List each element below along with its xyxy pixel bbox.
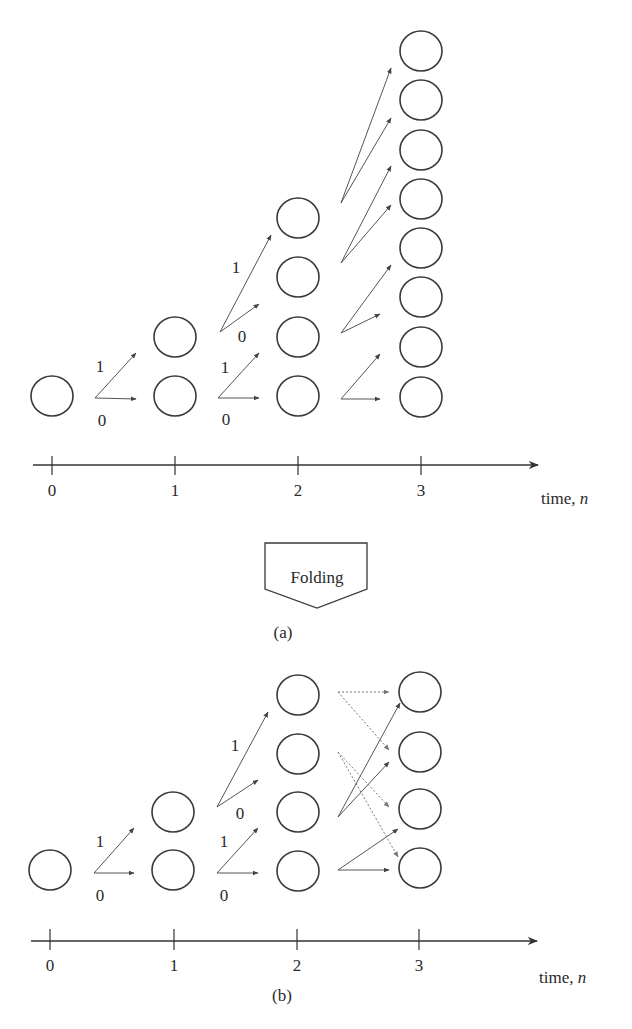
axis-title: time, n bbox=[541, 489, 588, 508]
axis-tick-label: 2 bbox=[294, 481, 303, 500]
axis-title-variable: n bbox=[578, 968, 587, 987]
axis-title: time, n bbox=[539, 968, 586, 987]
axis-tick-label: 0 bbox=[46, 956, 55, 975]
edge-bit-label: 0 bbox=[220, 886, 229, 905]
figure-caption-a: (a) bbox=[274, 623, 293, 642]
edge-bit-label: 1 bbox=[232, 258, 241, 277]
edge-bit-label: 0 bbox=[98, 411, 107, 430]
edge-bit-label: 1 bbox=[231, 736, 240, 755]
axis-tick-label: 3 bbox=[415, 956, 424, 975]
axis-title-variable: n bbox=[580, 489, 589, 508]
axis-title-text: time, bbox=[541, 489, 580, 508]
edge-bit-label: 0 bbox=[238, 327, 247, 346]
edge-bit-label: 0 bbox=[222, 410, 231, 429]
trellis-folding-diagram: 1010100123time, n(a) Folding 1010100123t… bbox=[0, 0, 632, 1029]
edge-bit-label: 1 bbox=[96, 357, 105, 376]
folding-label: Folding bbox=[291, 568, 344, 587]
axis-tick-label: 1 bbox=[170, 956, 179, 975]
edge-bit-label: 0 bbox=[236, 804, 245, 823]
edge-bit-label: 0 bbox=[96, 886, 105, 905]
axis-tick-label: 3 bbox=[417, 481, 426, 500]
figure-caption-b: (b) bbox=[272, 986, 292, 1005]
edge-bit-label: 1 bbox=[220, 832, 229, 851]
edge-bit-label: 1 bbox=[96, 832, 105, 851]
axis-title-text: time, bbox=[539, 968, 578, 987]
axis-tick-label: 1 bbox=[171, 481, 180, 500]
axis-tick-label: 2 bbox=[293, 956, 302, 975]
edge-bit-label: 1 bbox=[221, 358, 230, 377]
axis-tick-label: 0 bbox=[48, 481, 57, 500]
background bbox=[0, 0, 632, 1029]
